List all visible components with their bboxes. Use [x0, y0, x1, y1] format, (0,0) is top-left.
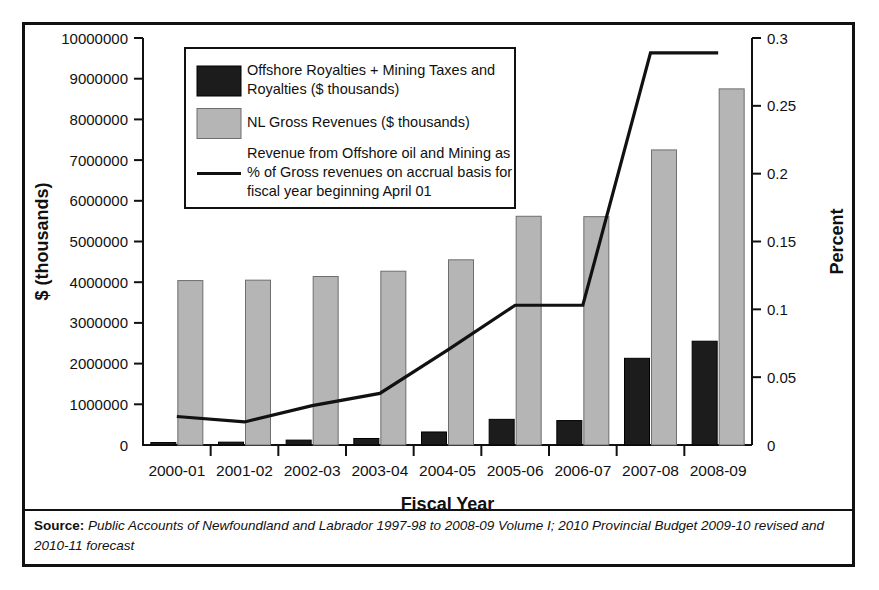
source-note: Source: Public Accounts of Newfoundland … — [34, 516, 840, 555]
bar-nl-gross-revenues — [719, 89, 744, 445]
bar-nl-gross-revenues — [313, 277, 338, 445]
plot-area: 0100000020000003000000400000050000006000… — [0, 0, 879, 590]
x-axis-tick-label: 2005-06 — [487, 462, 544, 479]
bar-offshore-royalties — [354, 438, 379, 445]
bar-offshore-royalties — [692, 341, 717, 445]
bar-nl-gross-revenues — [381, 271, 406, 445]
y2-axis-tick-label: 0 — [767, 437, 775, 454]
x-axis-title: Fiscal Year — [401, 494, 495, 514]
bar-nl-gross-revenues — [449, 260, 474, 445]
legend-entry-label: NL Gross Revenues ($ thousands) — [247, 114, 470, 130]
x-axis-tick-label: 2004-05 — [419, 462, 476, 479]
bar-offshore-royalties — [286, 440, 311, 445]
y2-axis-tick-label: 0.25 — [767, 97, 796, 114]
bar-offshore-royalties — [151, 443, 176, 445]
bar-nl-gross-revenues — [178, 281, 203, 445]
legend-swatch-offshore-royalties — [197, 66, 241, 96]
y-axis-tick-label: 8000000 — [70, 111, 128, 128]
y-axis-tick-label: 0 — [120, 437, 128, 454]
x-axis-tick-label: 2000-01 — [148, 462, 205, 479]
x-axis-tick-label: 2007-08 — [622, 462, 679, 479]
chart-svg: 0100000020000003000000400000050000006000… — [0, 0, 879, 590]
legend-entry-label: Revenue from Offshore oil and Mining as — [247, 145, 510, 161]
legend-entry-label: Royalties ($ thousands) — [247, 81, 399, 97]
y2-axis-tick-label: 0.2 — [767, 165, 788, 182]
y2-axis-tick-label: 0.3 — [767, 30, 788, 47]
y2-axis-tick-label: 0.05 — [767, 369, 796, 386]
x-axis-tick-label: 2002-03 — [284, 462, 341, 479]
y2-axis-tick-label: 0.15 — [767, 233, 796, 250]
legend-entry-label: Offshore Royalties + Mining Taxes and — [247, 62, 495, 78]
bar-offshore-royalties — [625, 358, 650, 445]
x-axis-tick-label: 2003-04 — [351, 462, 408, 479]
y-axis-tick-label: 5000000 — [70, 233, 128, 250]
y-axis-title: $ (thousands) — [32, 182, 52, 300]
chart-figure: 0100000020000003000000400000050000006000… — [0, 0, 879, 590]
bar-nl-gross-revenues — [516, 216, 541, 445]
y-axis-tick-label: 9000000 — [70, 70, 128, 87]
y-axis-tick-label: 4000000 — [70, 274, 128, 291]
y-axis-tick-label: 3000000 — [70, 314, 128, 331]
x-axis-tick-label: 2006-07 — [554, 462, 611, 479]
y2-axis-tick-label: 0.1 — [767, 301, 788, 318]
source-label: Source: — [34, 518, 84, 533]
bar-offshore-royalties — [422, 432, 447, 445]
x-axis-tick-label: 2008-09 — [690, 462, 747, 479]
y-axis-tick-label: 10000000 — [61, 30, 128, 47]
y-axis-tick-label: 1000000 — [70, 396, 128, 413]
source-text: Public Accounts of Newfoundland and Labr… — [34, 518, 824, 553]
bar-offshore-royalties — [219, 442, 244, 445]
bar-offshore-royalties — [489, 419, 514, 445]
y2-axis-title: Percent — [827, 208, 847, 274]
legend-entry-label: fiscal year beginning April 01 — [247, 183, 432, 199]
legend-swatch-nl-gross-revenues — [197, 109, 241, 139]
y-axis-tick-label: 7000000 — [70, 152, 128, 169]
bar-offshore-royalties — [557, 421, 582, 445]
bar-nl-gross-revenues — [652, 150, 677, 445]
y-axis-tick-label: 6000000 — [70, 192, 128, 209]
x-axis-tick-label: 2001-02 — [216, 462, 273, 479]
legend-entry-label: % of Gross revenues on accrual basis for — [247, 164, 512, 180]
y-axis-tick-label: 2000000 — [70, 355, 128, 372]
